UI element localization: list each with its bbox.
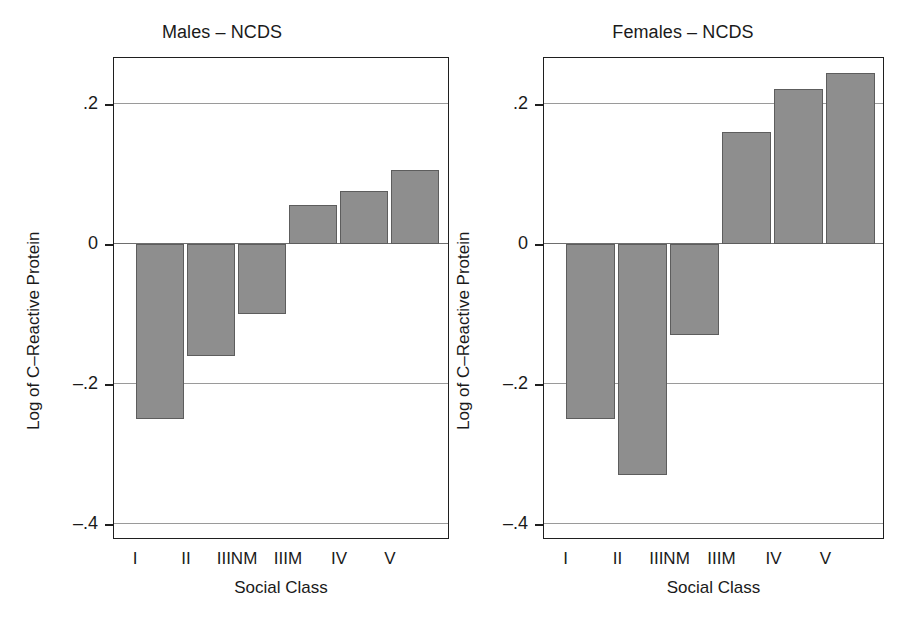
x-tick-label-females-IV: IV (749, 549, 798, 569)
y-tick-label-2: –.2 (73, 374, 98, 392)
y-tick-label-0: .2 (513, 94, 528, 112)
x-tick-label-females-V: V (801, 549, 850, 569)
y-axis-title-males: Log of C–Reactive Protein (24, 232, 44, 430)
gridline--0.4 (544, 523, 883, 524)
y-axis-title-females: Log of C–Reactive Protein (454, 232, 474, 430)
x-tick-label-females-IIIM: IIIM (697, 549, 746, 569)
bar-males-IIINM (238, 244, 286, 314)
y-tick-label-3: –.4 (503, 514, 528, 532)
plot-inner-males (114, 58, 448, 538)
panel-females: Females – NCDS Log of C–Reactive Protein… (430, 0, 899, 617)
bar-males-I (136, 244, 184, 419)
bar-females-V (826, 73, 875, 244)
x-axis-title-males: Social Class (113, 578, 449, 598)
y-tick-label-1: 0 (88, 234, 98, 252)
bar-males-II (187, 244, 235, 356)
x-axis-title-females: Social Class (543, 578, 884, 598)
x-tick-label-males-V: V (366, 549, 414, 569)
plot-area-females (543, 57, 884, 539)
bar-females-IIINM (670, 244, 719, 335)
x-tick-label-males-I: I (111, 549, 159, 569)
y-tick-label-3: –.4 (73, 514, 98, 532)
x-tick-label-males-IIIM: IIIM (264, 549, 312, 569)
y-tick-label-1: 0 (518, 234, 528, 252)
gridline--0.4 (114, 523, 448, 524)
bar-females-I (566, 244, 615, 419)
x-tick-label-females-II: II (593, 549, 642, 569)
gridline-0.2 (114, 103, 448, 104)
plot-area-males (113, 57, 449, 539)
panel-males: Males – NCDS Log of C–Reactive Protein .… (0, 0, 450, 617)
y-tick-label-0: .2 (83, 94, 98, 112)
bar-males-IV (340, 191, 388, 244)
x-tick-label-females-IIINM: IIINM (645, 549, 694, 569)
figure-two-panel-bar-chart: Males – NCDS Log of C–Reactive Protein .… (0, 0, 899, 617)
y-tick-label-2: –.2 (503, 374, 528, 392)
x-tick-label-males-IIINM: IIINM (213, 549, 261, 569)
bar-females-II (618, 244, 667, 475)
x-tick-label-males-II: II (162, 549, 210, 569)
x-tick-label-females-I: I (541, 549, 590, 569)
panel-title-males: Males – NCDS (0, 22, 447, 43)
bar-females-IIIM (722, 132, 771, 244)
x-tick-label-males-IV: IV (315, 549, 363, 569)
bar-males-IIIM (289, 205, 337, 244)
panel-title-females: Females – NCDS (513, 22, 853, 43)
bar-females-IV (774, 89, 823, 244)
plot-inner-females (544, 58, 883, 538)
